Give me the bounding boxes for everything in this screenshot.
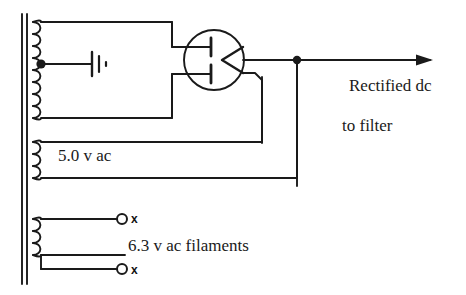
center-tap-dot <box>36 59 45 68</box>
label-rectified-dc-line1: Rectified dc <box>349 76 432 95</box>
tube-plate-v <box>222 47 243 73</box>
winding-high-voltage <box>33 21 113 120</box>
circuit-diagram-canvas: Rectified dc to filter 5.0 v ac 6.3 v ac… <box>0 0 466 295</box>
filament-terminal-bottom <box>117 264 127 274</box>
rail-5v-top-right <box>255 80 262 142</box>
corner-5v-top-right <box>250 142 262 152</box>
output-junction-dot <box>293 56 301 64</box>
wire-6v3-bottom <box>33 255 125 257</box>
terminal-mark-bottom: x <box>131 263 138 277</box>
wire-5v-top <box>33 141 262 143</box>
wire-hv-bottom-to-tube <box>113 74 196 118</box>
label-5v-ac: 5.0 v ac <box>58 146 111 166</box>
rail-hv-upper <box>113 22 172 47</box>
ground-symbol <box>92 52 106 76</box>
rail-5v-bottom-right <box>285 64 297 178</box>
wire-5v-bottom <box>33 178 297 180</box>
winding-6v3-ac <box>33 218 125 257</box>
label-rectified-dc-line2: to filter <box>342 116 432 136</box>
tube-envelope <box>184 30 244 90</box>
filament-terminal-top <box>117 214 127 224</box>
rail-tube-to-5v <box>243 73 262 80</box>
label-6v3-ac-filaments: 6.3 v ac filaments <box>128 236 249 256</box>
rectifier-tube <box>184 30 244 90</box>
terminal-mark-top: x <box>131 212 138 226</box>
label-rectified-dc: Rectified dc to filter <box>332 56 432 176</box>
rail-6v3-bottom <box>41 255 117 269</box>
wire-hv-top-to-tube <box>113 22 196 47</box>
rail-hv-lower <box>113 74 172 118</box>
